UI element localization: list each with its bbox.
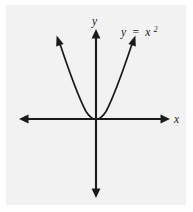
equation-base: x — [144, 26, 151, 38]
y-axis-top-arrowhead — [92, 29, 101, 39]
equation-operator: = — [132, 26, 139, 38]
equation-exponent: 2 — [154, 25, 158, 34]
parabola-left-arrowhead — [56, 36, 63, 47]
x-axis-left-arrowhead — [19, 115, 29, 124]
y-axis — [92, 29, 101, 198]
y-axis-bottom-arrowhead — [92, 189, 101, 199]
svg-text:y = x 2: y = x 2 — [120, 25, 158, 39]
x-axis-right-arrowhead — [161, 115, 171, 124]
x-axis-label: x — [173, 113, 180, 125]
parabola-graph: y x y = x 2 — [0, 0, 193, 212]
equation-dependent: y — [120, 26, 127, 39]
y-axis-label: y — [91, 15, 98, 28]
equation-label: y = x 2 — [120, 25, 158, 39]
